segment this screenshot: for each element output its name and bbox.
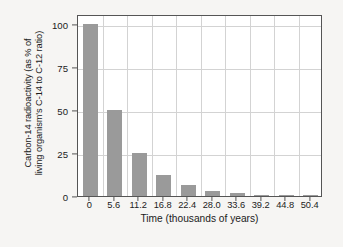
- bar-series: [78, 16, 321, 196]
- bar: [205, 191, 220, 196]
- x-axis-tick-label: 11.2: [130, 200, 147, 210]
- x-axis-tick-label: 33.6: [227, 200, 245, 210]
- x-axis-title: Time (thousands of years): [77, 213, 322, 224]
- x-axis-tick-label: 50.4: [301, 200, 319, 210]
- bar: [279, 195, 294, 196]
- y-axis-tick-label: 100: [42, 20, 68, 31]
- bar: [83, 24, 98, 196]
- plot-area: [77, 15, 322, 197]
- y-axis-title-line-1: Carbon-14 radioactivity (as % of: [23, 38, 34, 167]
- x-axis-tick-label: 22.4: [178, 200, 196, 210]
- bar: [107, 110, 122, 196]
- x-axis-tick-label: 28.0: [203, 200, 221, 210]
- y-axis-tick-label: 0: [42, 192, 68, 203]
- x-axis-tick-label: 44.8: [276, 200, 294, 210]
- bar: [156, 175, 171, 196]
- bar: [254, 195, 269, 196]
- x-axis-tick-label: 5.6: [107, 200, 120, 210]
- x-axis-tick-label: 0: [87, 200, 92, 210]
- bar: [303, 195, 318, 196]
- bar: [132, 153, 147, 196]
- y-axis-tick-label: 25: [42, 149, 68, 160]
- y-axis-title: Carbon-14 radioactivity (as % of living …: [17, 3, 51, 203]
- y-axis-tick-label: 50: [42, 106, 68, 117]
- bar: [181, 185, 196, 196]
- y-axis-tick-label: 75: [42, 63, 68, 74]
- x-axis-tick-label: 39.2: [252, 200, 270, 210]
- x-axis-tick-label: 16.8: [154, 200, 172, 210]
- chart-figure: Carbon-14 radioactivity (as % of living …: [0, 0, 343, 247]
- bar: [230, 193, 245, 196]
